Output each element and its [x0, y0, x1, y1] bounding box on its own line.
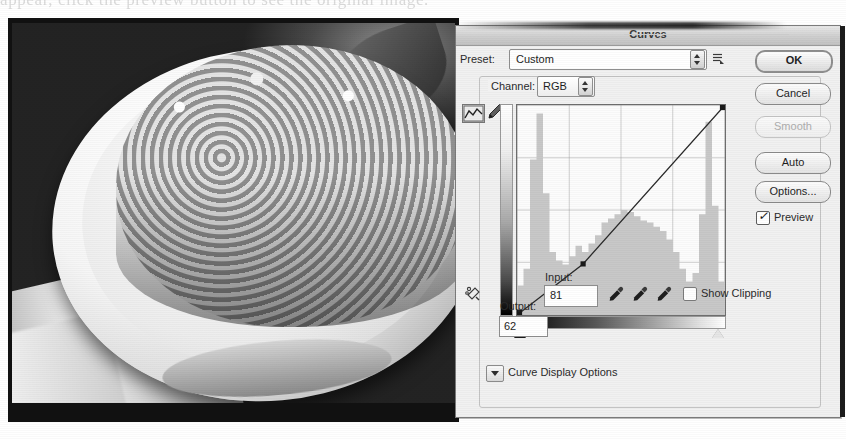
set-black-point-eyedropper[interactable]: [608, 286, 624, 303]
input-label: Input:: [545, 271, 573, 283]
output-input[interactable]: 62: [499, 316, 548, 337]
auto-button[interactable]: Auto: [755, 152, 831, 174]
document-photo: [8, 18, 459, 422]
dialog-right-shadow: [840, 26, 845, 417]
dialog-titlebar[interactable]: Curves: [456, 26, 840, 46]
output-gradient-bar: [500, 104, 513, 316]
channel-value: RGB: [543, 80, 567, 92]
options-button[interactable]: Options...: [755, 181, 831, 203]
photo-bottom-border: [12, 403, 455, 415]
curve-point-1[interactable]: [581, 261, 586, 266]
show-clipping-checkbox[interactable]: [683, 287, 697, 301]
preview-checkbox[interactable]: ✓: [756, 211, 770, 225]
input-value: 81: [550, 289, 562, 301]
check-icon: ✓: [758, 210, 768, 222]
preview-label: Preview: [774, 211, 813, 223]
curve-point-2[interactable]: [720, 105, 725, 110]
tone-curve[interactable]: [517, 105, 725, 315]
preset-stepper[interactable]: [690, 50, 705, 69]
preset-menu-icon[interactable]: [712, 52, 725, 65]
ok-button[interactable]: OK: [755, 50, 833, 73]
show-clipping-label: Show Clipping: [701, 287, 771, 299]
channel-label: Channel:: [488, 80, 538, 92]
preset-label: Preset:: [460, 53, 495, 65]
divider: [624, 34, 789, 35]
output-value: 62: [504, 320, 516, 332]
white-point-slider[interactable]: [712, 329, 724, 338]
curves-dialog: Curves Preset: Custom Channel: RGB: [455, 25, 841, 418]
preset-select[interactable]: Custom: [509, 49, 707, 70]
chevron-up-icon: [582, 81, 588, 85]
smooth-button: Smooth: [755, 116, 831, 138]
chevron-down-icon: [694, 61, 700, 65]
channel-select[interactable]: RGB: [537, 76, 595, 97]
disclosure-triangle-icon[interactable]: [486, 365, 504, 382]
curve-tool-icon[interactable]: [462, 104, 485, 123]
on-image-adjustment-icon[interactable]: [464, 284, 484, 303]
cancel-button[interactable]: Cancel: [755, 83, 831, 105]
curve-control-points: [517, 105, 725, 315]
chevron-up-icon: [694, 54, 700, 58]
chevron-down-icon: [582, 88, 588, 92]
set-white-point-eyedropper[interactable]: [656, 286, 672, 303]
set-gray-point-eyedropper[interactable]: [632, 286, 648, 303]
pasta-shadow: [116, 173, 455, 327]
channel-stepper[interactable]: [578, 77, 593, 96]
photo-canvas: [12, 23, 455, 415]
page-bleed-text: appear, click the preview button to see …: [0, 0, 846, 12]
output-label: Output:: [500, 300, 536, 312]
curve-display-options-label: Curve Display Options: [508, 366, 617, 378]
preset-value: Custom: [516, 53, 554, 65]
input-input[interactable]: 81: [544, 285, 598, 307]
